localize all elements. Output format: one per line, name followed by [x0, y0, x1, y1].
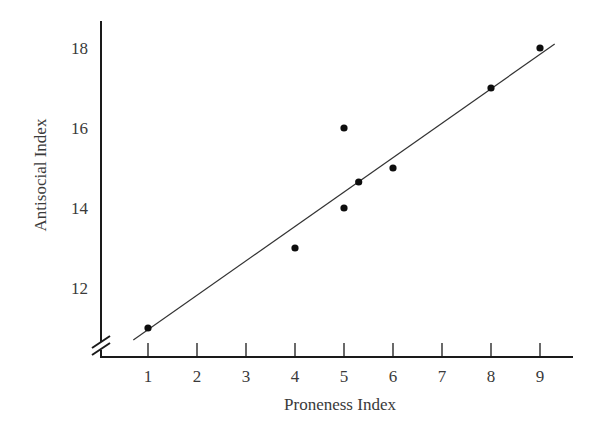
- x-tick-label: 8: [487, 368, 496, 385]
- x-tick-label: 7: [438, 368, 447, 385]
- data-point: [355, 178, 362, 185]
- plot-area: [0, 0, 603, 432]
- data-point: [536, 44, 543, 51]
- x-axis-title: Proneness Index: [284, 396, 396, 413]
- data-points: [144, 44, 543, 331]
- axes: [100, 21, 573, 358]
- data-point: [340, 124, 347, 131]
- data-point: [291, 244, 298, 251]
- x-tick-label: 1: [144, 368, 153, 385]
- x-tick-label: 4: [291, 368, 300, 385]
- x-tick-label: 5: [340, 368, 349, 385]
- data-point: [144, 324, 151, 331]
- x-tick-label: 9: [536, 368, 545, 385]
- y-tick-label: 18: [71, 40, 88, 57]
- x-tick-label: 3: [242, 368, 251, 385]
- x-tick-label: 2: [193, 368, 202, 385]
- data-point: [340, 204, 347, 211]
- x-axis-ticks: [148, 343, 540, 357]
- data-point: [487, 84, 494, 91]
- y-tick-label: 12: [71, 280, 88, 297]
- scatter-chart: 123456789 12141618 Proneness Index Antis…: [0, 0, 603, 432]
- y-axis-title: Antisocial Index: [32, 119, 49, 232]
- x-tick-label: 6: [389, 368, 398, 385]
- data-point: [389, 164, 396, 171]
- y-tick-label: 16: [71, 120, 88, 137]
- y-tick-label: 14: [71, 200, 88, 217]
